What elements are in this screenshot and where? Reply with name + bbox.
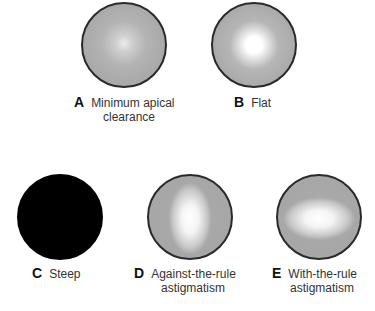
label-text: Minimum apical: [91, 96, 174, 110]
fluorescein-pattern-steep: [17, 174, 103, 260]
fluorescein-pattern-flat: [211, 2, 297, 88]
label-text: Flat: [251, 96, 271, 110]
panel-letter: E: [272, 265, 281, 281]
panel-letter: D: [134, 265, 144, 281]
label-text: Against-the-rule: [151, 267, 236, 281]
fluorescein-pattern-minimum-apical-clearance: [81, 2, 167, 88]
panel-letter: C: [32, 265, 42, 281]
panel-c-label: CSteep: [32, 266, 80, 281]
panel-e-label-line2: astigmatism: [290, 281, 354, 295]
panel-a-label-line2: clearance: [103, 110, 155, 124]
panel-d-label: DAgainst-the-rule: [134, 266, 236, 281]
panel-a-label: AMinimum apical: [74, 95, 174, 110]
label-text: Steep: [49, 267, 80, 281]
panel-letter: B: [234, 94, 244, 110]
label-text: With-the-rule: [288, 267, 357, 281]
panel-e-label: EWith-the-rule: [272, 266, 357, 281]
panel-letter: A: [74, 94, 84, 110]
fluorescein-pattern-against-the-rule: [147, 174, 233, 260]
fluorescein-pattern-with-the-rule: [276, 174, 362, 260]
panel-d-label-line2: astigmatism: [161, 281, 225, 295]
panel-b-label: BFlat: [234, 95, 271, 110]
